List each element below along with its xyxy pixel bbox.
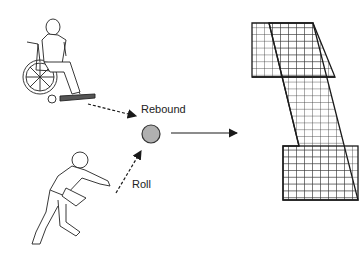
diagram-canvas <box>0 0 360 256</box>
ball <box>142 125 160 143</box>
dashed-arrow-wheelchair <box>88 104 136 116</box>
wheelchair-user-illustration <box>23 19 95 103</box>
roll-label: Roll <box>132 178 151 190</box>
rebound-net <box>252 23 358 200</box>
rebound-label: Rebound <box>141 103 186 115</box>
rolling-player-illustration <box>32 152 110 244</box>
